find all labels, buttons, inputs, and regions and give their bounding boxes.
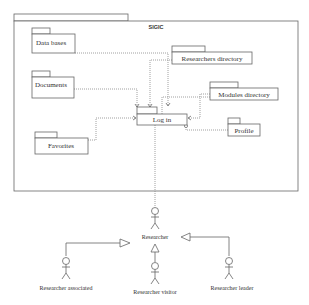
actor-researcher[interactable]: Researcher <box>142 208 169 241</box>
package-label: Researchers directory <box>182 55 243 63</box>
actor-label: Researcher associated <box>40 285 93 291</box>
package-label: Favorites <box>48 142 74 150</box>
package-label: Log in <box>153 116 172 124</box>
stick-figure-icon <box>151 208 159 230</box>
actor-label: Researcher <box>142 234 169 240</box>
actor-label: Researcher leader <box>211 285 254 291</box>
stick-figure-icon <box>225 258 233 280</box>
actor-researcher-leader[interactable]: Researcher leader <box>211 258 254 292</box>
stick-figure-icon <box>151 263 159 285</box>
package-label: Modules directory <box>218 91 270 99</box>
package-label: Documents <box>35 81 67 89</box>
actor-label: Researcher visitor <box>133 289 176 295</box>
actor-researcher-visitor[interactable]: Researcher visitor <box>133 263 176 296</box>
uml-diagram: SIGIC Data bases Researchers directo <box>0 0 309 305</box>
actor-researcher-associated[interactable]: Researcher associated <box>40 258 93 292</box>
package-label: Data bases <box>36 39 66 47</box>
sigic-title: SIGIC <box>149 24 164 30</box>
package-label: Profile <box>234 127 253 135</box>
stick-figure-icon <box>62 258 70 280</box>
